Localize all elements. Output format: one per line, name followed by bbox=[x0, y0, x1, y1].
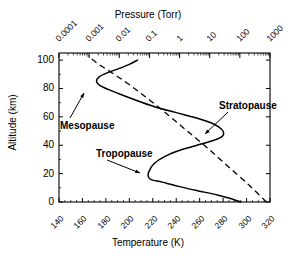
altitude-tick-label: 40 bbox=[30, 139, 54, 150]
pressure-curve bbox=[88, 56, 267, 202]
altitude-tick-label: 80 bbox=[30, 82, 54, 93]
chart-figure: Pressure (Torr) Temperature (K) Altitude… bbox=[0, 0, 296, 259]
temperature-curve bbox=[96, 60, 240, 202]
altitude-tick-label: 100 bbox=[30, 54, 54, 65]
altitude-tick-label: 60 bbox=[30, 111, 54, 122]
tropopause-arrow-head bbox=[135, 170, 140, 173]
altitude-tick-label: 0 bbox=[30, 196, 54, 207]
annotation-tropopause: Tropopause bbox=[96, 148, 153, 159]
annotation-stratopause: Stratopause bbox=[219, 100, 277, 111]
altitude-tick-label: 20 bbox=[30, 168, 54, 179]
mesopause-arrow-head bbox=[80, 93, 84, 98]
stratopause-arrow bbox=[205, 112, 228, 134]
annotation-mesopause: Mesopause bbox=[60, 120, 114, 131]
tropopause-arrow bbox=[107, 160, 140, 173]
